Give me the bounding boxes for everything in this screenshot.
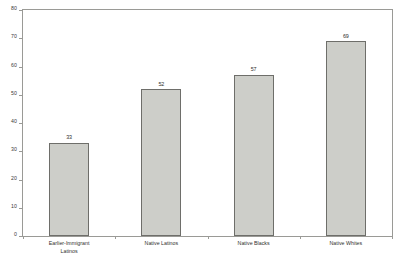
bar-slot: 33	[23, 10, 115, 236]
bar	[141, 89, 181, 236]
bar-slot: 69	[300, 10, 392, 236]
bar-slot: 52	[115, 10, 207, 236]
x-axis-category-label: Native Blacks	[208, 240, 300, 248]
y-axis-tick-mark	[19, 180, 22, 181]
bar-value-label: 57	[251, 66, 257, 72]
y-axis-tick-label: 40	[11, 118, 17, 124]
x-axis-category-label-line: Latinos	[23, 248, 115, 256]
x-axis-category-label-line: Native Blacks	[208, 240, 300, 248]
y-axis-tick-mark	[19, 123, 22, 124]
y-axis-tick-label: 50	[11, 90, 17, 96]
x-axis-category-label-line: Native Latinos	[115, 240, 207, 248]
y-axis-tick-label: 70	[11, 33, 17, 39]
y-axis-tick-mark	[19, 10, 22, 11]
bar-slot: 57	[208, 10, 300, 236]
x-axis-tick-mark	[115, 236, 116, 239]
x-axis-tick-mark	[208, 236, 209, 239]
y-axis-tick-mark	[19, 208, 22, 209]
x-axis-tick-mark	[23, 236, 24, 239]
x-axis-category-label: Native Whites	[300, 240, 392, 248]
y-axis-tick-mark	[19, 38, 22, 39]
x-axis-tick-mark	[392, 236, 393, 239]
y-axis-tick-label: 0	[14, 231, 17, 237]
x-axis-category-label: Earlier-ImmigrantLatinos	[23, 240, 115, 255]
x-axis-labels: Earlier-ImmigrantLatinosNative LatinosNa…	[23, 240, 392, 261]
y-axis-tick-label: 10	[11, 203, 17, 209]
y-axis-tick-label: 20	[11, 175, 17, 181]
y-axis-tick-label: 60	[11, 62, 17, 68]
y-axis-tick-mark	[19, 67, 22, 68]
bar-chart-figure: 01020304050607080 33525769 Earlier-Immig…	[0, 0, 404, 261]
y-axis-tick-mark	[19, 95, 22, 96]
y-axis-tick-label: 30	[11, 146, 17, 152]
x-axis-tick-mark	[300, 236, 301, 239]
x-axis-category-label: Native Latinos	[115, 240, 207, 248]
bar	[234, 75, 274, 236]
bar	[49, 143, 89, 236]
bar-value-label: 69	[343, 33, 349, 39]
bar-value-label: 52	[158, 81, 164, 87]
bar	[326, 41, 366, 236]
x-axis-category-label-line: Native Whites	[300, 240, 392, 248]
bars-container: 33525769	[23, 10, 392, 236]
y-axis: 01020304050607080	[0, 9, 22, 237]
x-axis-category-label-line: Earlier-Immigrant	[23, 240, 115, 248]
y-axis-tick-mark	[19, 151, 22, 152]
bar-value-label: 33	[66, 134, 72, 140]
y-axis-tick-label: 80	[11, 5, 17, 11]
